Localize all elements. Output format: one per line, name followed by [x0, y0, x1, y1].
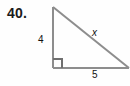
right-angle-marker-icon [53, 59, 62, 68]
label-horizontal-leg: 5 [92, 70, 98, 80]
hypotenuse-line [53, 7, 129, 68]
geometry-problem-figure: 40. 4 5 x [0, 0, 130, 86]
right-triangle-drawing [0, 0, 130, 86]
label-vertical-leg: 4 [38, 35, 44, 45]
label-hypotenuse: x [92, 28, 97, 38]
